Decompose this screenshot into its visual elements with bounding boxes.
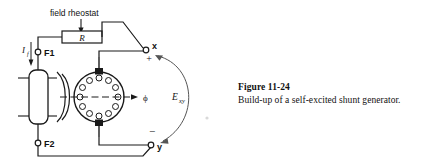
terminal-y-group: y −	[148, 125, 162, 152]
field-current-arrow: I f	[21, 42, 33, 66]
terminal-x-group: x +	[143, 41, 157, 64]
terminal-F1-group: F1	[35, 48, 54, 71]
rheostat-R-box: R	[62, 31, 102, 43]
polarity-positive-label: +	[146, 53, 152, 64]
emf-bracket-arrowheads	[155, 55, 169, 144]
wire-F2-to-terminal-y	[38, 146, 151, 156]
terminal-F2-label: F2	[44, 139, 55, 149]
terminal-F1-label: F1	[44, 48, 55, 58]
rheostat-label-R: R	[78, 33, 85, 43]
scan-artifact-dot	[205, 116, 208, 119]
figure-container: R I f F1	[0, 0, 431, 165]
emf-label: E	[171, 92, 178, 102]
field-rheostat-label: field rheostat	[50, 8, 99, 18]
field-current-sublabel: f	[27, 51, 30, 57]
terminal-F2-group: F2	[35, 124, 54, 149]
flux-label: ϕ	[143, 93, 148, 103]
field-coil	[18, 70, 57, 124]
figure-caption-title: Figure 11-24	[238, 82, 428, 92]
field-current-label: I	[21, 45, 26, 55]
wire-brush-bottom-to-y	[99, 137, 148, 145]
brush-top	[96, 57, 103, 74]
terminal-y-label: y	[157, 142, 162, 152]
wire-R-to-terminal-x	[102, 22, 143, 48]
wire-brush-top-to-x	[99, 51, 143, 57]
figure-caption-body: Build-up of a self-excited shunt generat…	[238, 95, 428, 105]
emf-sublabel: xy	[178, 97, 185, 104]
brush-bottom	[96, 120, 103, 137]
emf-label-group: E xy	[171, 92, 185, 104]
polarity-negative-label: −	[149, 125, 155, 137]
terminal-x-label: x	[152, 41, 157, 51]
